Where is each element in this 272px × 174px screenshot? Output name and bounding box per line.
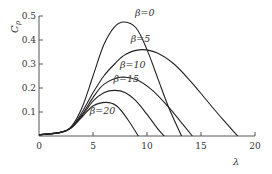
x-tick-label: 15 <box>195 141 207 151</box>
y-axis-label-sub: p <box>14 20 22 25</box>
curve-label: β=15 <box>113 73 140 84</box>
cp-lambda-chart: 051015200.10.20.30.40.5 β=0β=5β=10β=15β=… <box>0 0 272 174</box>
x-axis-label: λ <box>232 156 239 167</box>
curve-label: β=5 <box>130 33 151 44</box>
y-tick-label: 0.5 <box>22 11 37 21</box>
x-tick-label: 10 <box>141 141 153 151</box>
axes: 051015200.10.20.30.40.5 <box>22 11 261 151</box>
x-tick-label: 5 <box>90 141 96 151</box>
curve-labels: β=0β=5β=10β=15β=20 <box>89 7 155 116</box>
y-axis-label: Cp <box>9 20 22 33</box>
y-tick-label: 0.3 <box>22 59 37 69</box>
curve-beta-10 <box>39 77 192 136</box>
y-tick-label: 0.1 <box>22 107 36 117</box>
curve-label: β=20 <box>89 105 116 116</box>
y-tick-label: 0.2 <box>22 83 36 93</box>
y-tick-label: 0.4 <box>22 35 37 45</box>
curve-label: β=0 <box>134 7 155 18</box>
curve-beta-0 <box>39 22 182 136</box>
x-tick-label: 0 <box>36 141 42 151</box>
curve-label: β=10 <box>119 59 146 70</box>
x-tick-label: 20 <box>249 141 261 151</box>
